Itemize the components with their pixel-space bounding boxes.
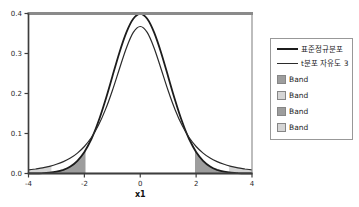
legend-entry-t3: t분포 자유도 3 — [277, 60, 350, 68]
legend-entry-band-2: Band — [277, 91, 350, 100]
y-tick-label: 0.2 — [11, 90, 22, 98]
x-tick-label: 0 — [138, 180, 142, 188]
x-tick-label: -2 — [81, 180, 88, 188]
legend-entry-band-4: Band — [277, 123, 350, 132]
legend-normal-line-swatch — [277, 48, 298, 50]
legend-band-swatch — [277, 123, 286, 132]
series-curve-1 — [29, 27, 253, 170]
y-axis-ticks: 0.00.10.20.30.4 — [11, 10, 29, 178]
legend-entry-normal: 표준정규분포 — [277, 46, 350, 54]
plot-frame — [29, 14, 253, 174]
x-axis-label: x1 — [135, 190, 146, 199]
legend-t3-line-swatch — [277, 63, 298, 64]
x-axis-ticks: -4-2024 — [25, 174, 255, 189]
legend-entry-band-1: Band — [277, 75, 350, 84]
legend-entry-band-3: Band — [277, 107, 350, 116]
legend-label: Band — [289, 76, 308, 84]
legend: 표준정규분포 t분포 자유도 3 Band Band Band Band — [270, 38, 353, 140]
x-tick-label: -4 — [25, 180, 33, 188]
chart-panel: -4-2024 0.00.10.20.30.4 x1 표준정규분포 t분포 자유… — [0, 0, 359, 207]
legend-label: 표준정규분포 — [301, 46, 343, 54]
legend-label: Band — [289, 92, 308, 100]
legend-label: Band — [289, 108, 308, 116]
legend-label: Band — [289, 124, 308, 132]
plot-frame-group — [28, 14, 254, 174]
legend-band-swatch — [277, 91, 286, 100]
y-tick-label: 0.0 — [11, 170, 22, 178]
legend-band-swatch — [277, 75, 286, 84]
x-tick-label: 2 — [194, 180, 198, 188]
y-tick-label: 0.1 — [11, 130, 22, 138]
legend-label: t분포 자유도 3 — [301, 60, 348, 68]
legend-band-swatch — [277, 107, 286, 116]
curves-group — [29, 14, 253, 174]
y-tick-label: 0.4 — [11, 10, 23, 18]
series-curve-0 — [29, 14, 253, 174]
x-tick-label: 4 — [250, 180, 255, 188]
y-tick-label: 0.3 — [11, 50, 22, 58]
